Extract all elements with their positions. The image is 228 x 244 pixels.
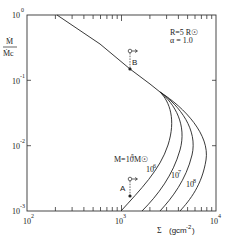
svg-text:3: 3 [123, 213, 126, 219]
svg-text:-2: -2 [20, 138, 25, 144]
svg-text:Ṁ: Ṁ [6, 37, 13, 46]
svg-text:α = 1.0: α = 1.0 [170, 36, 193, 45]
marker-b: B [128, 49, 137, 70]
svg-text:10: 10 [23, 217, 31, 226]
svg-text:10: 10 [12, 11, 20, 20]
curve-m6 [142, 92, 182, 211]
svg-text:10: 10 [12, 142, 20, 151]
svg-text:-3: -3 [20, 203, 25, 209]
curve-m7 [160, 92, 193, 211]
svg-text:A: A [120, 184, 126, 193]
chart: B A 100 10-1 10-2 10-3 Ṁ Ṁc 102 103 104 … [0, 0, 228, 244]
parameter-annotation: R=5 R☉ α = 1.0 [170, 28, 198, 45]
svg-text:4: 4 [218, 213, 221, 219]
svg-text:Σ: Σ [157, 226, 162, 235]
svg-text:2: 2 [31, 213, 34, 219]
y-tick-labels: 100 10-1 10-2 10-3 [12, 7, 25, 216]
upper-branch [57, 15, 160, 92]
svg-text:7: 7 [178, 169, 181, 175]
svg-text:B: B [132, 58, 137, 67]
svg-text:M☉: M☉ [134, 155, 148, 164]
x-axis-label: Σ (gcm -2 ) [157, 224, 195, 235]
y-axis-label: Ṁ Ṁc [3, 37, 17, 58]
marker-a: A [120, 177, 138, 197]
svg-text:-1: -1 [20, 73, 25, 79]
svg-text:8: 8 [193, 178, 196, 184]
curve-m8 [160, 92, 206, 211]
curve-m5 [121, 92, 172, 211]
svg-text:10: 10 [115, 217, 123, 226]
svg-text:0: 0 [21, 7, 24, 13]
svg-text:10: 10 [12, 77, 20, 86]
svg-text:10: 10 [12, 207, 20, 216]
svg-text:10: 10 [210, 217, 218, 226]
y-ticks [27, 80, 216, 145]
svg-text:Ṁc: Ṁc [3, 49, 14, 58]
svg-text:): ) [192, 226, 195, 235]
svg-text:6: 6 [153, 163, 156, 169]
svg-text:(gcm: (gcm [169, 226, 187, 235]
